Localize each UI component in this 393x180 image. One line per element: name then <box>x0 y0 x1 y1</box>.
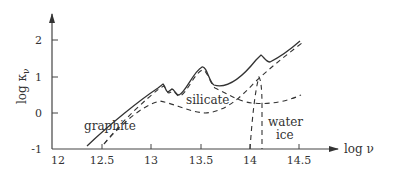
water-label: water <box>268 115 303 129</box>
y-ticks <box>52 40 58 113</box>
x-ticks <box>102 144 299 149</box>
y-tick-label: 1 <box>35 71 42 84</box>
y-tick-label: 0 <box>35 107 42 120</box>
graphite-label: graphite <box>84 119 136 133</box>
ice-label: ice <box>276 128 294 142</box>
x-axis-label: log ν <box>344 142 374 156</box>
svg-text:log κν: log κν <box>15 68 31 104</box>
x-tick-label: 12.5 <box>90 154 115 167</box>
x-tick-label: 14 <box>243 154 257 167</box>
x-tick-label: 13.5 <box>189 154 214 167</box>
silicate-label: silicate <box>186 93 229 107</box>
water-ice-curve <box>250 77 262 149</box>
y-tick-label: 2 <box>35 34 42 47</box>
y-tick-label: -1 <box>31 143 42 156</box>
y-axis-label: log κν <box>15 68 31 104</box>
x-tick-label: 12 <box>51 154 65 167</box>
x-tick-label: 13 <box>144 154 158 167</box>
x-tick-label: 14.5 <box>287 154 312 167</box>
opacity-chart: 12 12.5 13 13.5 14 14.5 -1 0 1 2 log ν l… <box>0 0 393 180</box>
